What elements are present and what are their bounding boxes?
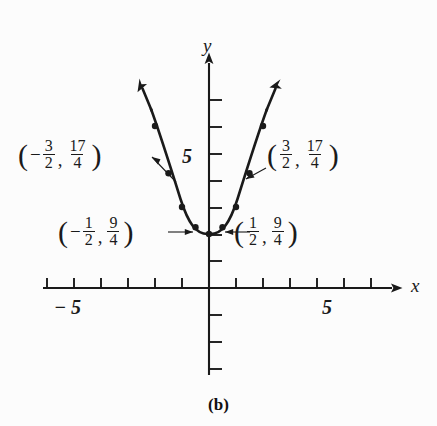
denominator: 4 bbox=[107, 231, 119, 248]
numerator: 3 bbox=[280, 138, 292, 154]
denominator: 2 bbox=[83, 231, 95, 248]
x-fraction: 3 2 bbox=[43, 138, 55, 172]
denominator: 2 bbox=[43, 154, 55, 171]
comma: , bbox=[262, 227, 267, 246]
point-marker bbox=[219, 224, 225, 230]
comma: , bbox=[295, 150, 300, 169]
point-marker bbox=[192, 224, 198, 230]
open-paren: ( bbox=[18, 142, 28, 168]
negative-sign: − bbox=[70, 222, 81, 241]
open-paren: ( bbox=[58, 219, 68, 245]
point-marker bbox=[179, 204, 185, 210]
figure-caption: (b) bbox=[0, 396, 437, 413]
denominator: 2 bbox=[247, 231, 259, 248]
y-fraction: 17 4 bbox=[67, 138, 87, 172]
x-fraction: 1 2 bbox=[83, 215, 95, 249]
point-label-lower-left: ( − 1 2 , 9 4 ) bbox=[58, 215, 133, 249]
numerator: 9 bbox=[272, 215, 284, 231]
y-axis-label: y bbox=[203, 36, 211, 55]
y-fraction: 9 4 bbox=[107, 215, 119, 249]
point-label-upper-right: ( 3 2 , 17 4 ) bbox=[267, 138, 339, 172]
y-tick-label-5: 5 bbox=[182, 146, 192, 166]
point-marker bbox=[152, 123, 158, 129]
point-label-upper-left: ( − 3 2 , 17 4 ) bbox=[18, 138, 101, 172]
close-paren: ) bbox=[288, 219, 298, 245]
open-paren: ( bbox=[267, 142, 277, 168]
denominator: 4 bbox=[71, 154, 83, 171]
numerator: 1 bbox=[247, 215, 259, 231]
x-fraction: 1 2 bbox=[247, 215, 259, 249]
numerator: 17 bbox=[305, 138, 325, 154]
point-marker bbox=[233, 204, 239, 210]
figure-panel: y x 5 − 5 5 ( − 3 2 , 17 4 ) ( 3 2 , 17 … bbox=[0, 0, 437, 426]
y-fraction: 17 4 bbox=[305, 138, 325, 172]
numerator: 3 bbox=[43, 138, 55, 154]
close-paren: ) bbox=[91, 142, 101, 168]
x-axis-label: x bbox=[411, 276, 419, 295]
numerator: 1 bbox=[83, 215, 95, 231]
x-tick-label-negative-5: − 5 bbox=[54, 297, 81, 317]
point-marker bbox=[206, 231, 212, 237]
x-fraction: 3 2 bbox=[280, 138, 292, 172]
open-paren: ( bbox=[234, 219, 244, 245]
point-label-lower-right: ( 1 2 , 9 4 ) bbox=[234, 215, 298, 249]
negative-sign: − bbox=[30, 145, 41, 164]
curve-arrow-left bbox=[143, 89, 152, 111]
y-fraction: 9 4 bbox=[272, 215, 284, 249]
denominator: 4 bbox=[272, 231, 284, 248]
x-tick-label-5: 5 bbox=[322, 297, 332, 317]
y-axis bbox=[209, 63, 222, 375]
curve-arrow-right bbox=[266, 89, 275, 111]
comma: , bbox=[98, 227, 103, 246]
denominator: 4 bbox=[309, 154, 321, 171]
comma: , bbox=[58, 150, 63, 169]
denominator: 2 bbox=[280, 154, 292, 171]
numerator: 17 bbox=[67, 138, 87, 154]
coordinate-plane bbox=[0, 0, 437, 426]
point-marker bbox=[260, 123, 266, 129]
close-paren: ) bbox=[329, 142, 339, 168]
x-axis bbox=[43, 278, 392, 288]
close-paren: ) bbox=[123, 219, 133, 245]
numerator: 9 bbox=[107, 215, 119, 231]
